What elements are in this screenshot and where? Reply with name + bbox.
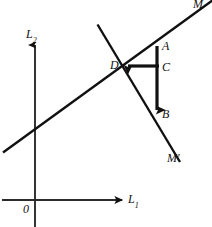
origin-label: 0: [23, 203, 29, 215]
axis-label-L1: L1: [128, 193, 139, 208]
geometry-figure: A C B D M M′ L2 L1 0: [0, 0, 212, 227]
ray-label-M-prime: M′: [167, 152, 180, 164]
axis-label-L1-text: L: [128, 192, 135, 206]
prime-glyph: ′: [177, 151, 180, 165]
axis-label-L2: L2: [26, 28, 37, 43]
axis-label-L2-subscript: 2: [33, 36, 37, 45]
ray-label-M: M: [193, 0, 203, 10]
axis-label-L1-subscript: 1: [135, 201, 139, 210]
point-label-D: D: [110, 59, 119, 71]
coordinate-axes: [2, 45, 122, 227]
point-label-C: C: [162, 61, 170, 73]
ray-label-M-prime-text: M: [167, 151, 177, 165]
point-label-B: B: [162, 108, 169, 120]
point-label-A: A: [162, 40, 169, 52]
axis-label-L2-text: L: [26, 27, 33, 41]
